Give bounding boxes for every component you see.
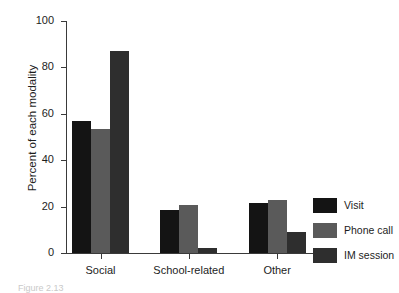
x-tick-mark xyxy=(189,254,190,259)
legend-label: IM session xyxy=(344,249,394,261)
x-axis-line xyxy=(66,253,332,254)
plot-area xyxy=(67,21,332,253)
legend-label: Visit xyxy=(344,199,364,211)
figure-caption: Figure 2.13 xyxy=(18,283,64,293)
bar-other-im-session xyxy=(287,232,306,253)
legend-item[interactable]: IM session xyxy=(313,244,394,266)
y-tick-label: 60 xyxy=(8,108,54,119)
y-tick-label: 0 xyxy=(8,247,54,258)
bar-social-visit xyxy=(72,121,91,253)
y-tick-label: 100 xyxy=(8,15,54,26)
y-axis-ticks: 020406080100 xyxy=(0,0,66,293)
legend-item[interactable]: Phone call xyxy=(313,219,394,241)
bar-social-im-session xyxy=(110,51,129,253)
bar-social-phone-call xyxy=(91,129,110,253)
chart-legend: VisitPhone callIM session xyxy=(313,194,394,269)
bar-other-phone-call xyxy=(268,200,287,253)
legend-swatch-icon xyxy=(313,248,337,263)
bar-school-related-visit xyxy=(160,210,179,253)
legend-swatch-icon xyxy=(313,198,337,213)
figure-bar-chart: Percent of each modality 020406080100 So… xyxy=(0,0,399,293)
legend-item[interactable]: Visit xyxy=(313,194,394,216)
bar-other-visit xyxy=(249,203,268,253)
legend-swatch-icon xyxy=(313,223,337,238)
bar-school-related-phone-call xyxy=(179,205,198,253)
y-tick-label: 20 xyxy=(8,201,54,212)
y-tick-label: 80 xyxy=(8,61,54,72)
x-tick-mark xyxy=(277,254,278,259)
bar-school-related-im-session xyxy=(198,248,217,253)
x-tick-mark xyxy=(101,254,102,259)
legend-label: Phone call xyxy=(344,224,393,236)
y-tick-label: 40 xyxy=(8,154,54,165)
